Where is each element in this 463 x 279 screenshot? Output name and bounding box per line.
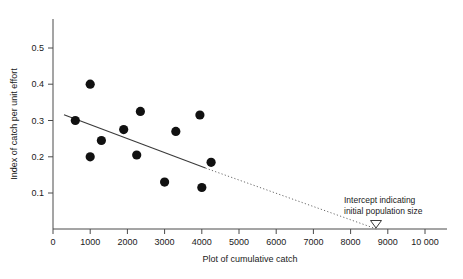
- data-point: [119, 125, 128, 134]
- y-tick-label-03: 0.3: [31, 116, 44, 126]
- annotation-line-2: initial population size: [344, 206, 423, 216]
- scatter-chart: 0.5 0.4 0.3 0.2 0.1 Index of catch per u…: [0, 0, 463, 279]
- x-tick-label: 3000: [155, 237, 175, 247]
- x-tick-label: 9000: [378, 237, 398, 247]
- y-tick-label-01: 0.1: [31, 188, 44, 198]
- data-point: [195, 110, 204, 119]
- x-tick-label: 8000: [341, 237, 361, 247]
- y-tick-label-05: 0.5: [31, 43, 44, 53]
- data-point: [197, 183, 206, 192]
- data-point: [160, 178, 169, 187]
- data-point: [171, 127, 180, 136]
- data-point: [71, 116, 80, 125]
- data-point: [207, 158, 216, 167]
- data-point: [97, 136, 106, 145]
- data-point: [86, 80, 95, 89]
- x-tick-label: 4000: [192, 237, 212, 247]
- x-tick-label: 2000: [117, 237, 137, 247]
- x-tick-label: 0: [50, 237, 55, 247]
- y-tick-label-02: 0.2: [31, 152, 44, 162]
- x-tick-label: 7000: [303, 237, 323, 247]
- annotation-line-1: Intercept indicating: [344, 195, 416, 205]
- x-axis-title: Plot of cumulative catch: [202, 254, 297, 264]
- data-point: [136, 107, 145, 116]
- x-tick-label: 6000: [266, 237, 286, 247]
- data-point: [132, 150, 141, 159]
- x-tick-label: 1000: [80, 237, 100, 247]
- data-point: [86, 152, 95, 161]
- x-tick-label: 5000: [229, 237, 249, 247]
- y-tick-label-04: 0.4: [31, 79, 44, 89]
- y-axis-title: Index of catch per unit effort: [9, 68, 19, 180]
- x-tick-label: 10 000: [411, 237, 439, 247]
